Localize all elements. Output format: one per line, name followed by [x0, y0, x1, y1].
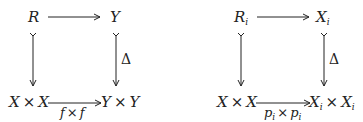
- mono-arrow-left-vertical: [30, 33, 36, 86]
- subscript: i: [352, 102, 355, 112]
- factor: Y: [101, 93, 111, 111]
- delta-label-left: Δ: [121, 52, 131, 66]
- subscript: i: [272, 112, 275, 122]
- node-R-label: R: [28, 8, 39, 26]
- factor: Y: [129, 93, 139, 111]
- times-op: ×: [23, 93, 36, 111]
- label-part: f: [80, 105, 85, 120]
- subscript: i: [245, 17, 248, 27]
- delta-label-right: Δ: [329, 52, 339, 66]
- factor: X: [217, 93, 228, 111]
- factor: X: [246, 93, 257, 111]
- times-op: ×: [67, 105, 78, 120]
- node-Y-label: Y: [110, 8, 120, 26]
- node-YxY: Y×Y: [101, 95, 139, 110]
- label-f-times-f: f×f: [60, 106, 85, 119]
- mono-arrow-right-vertical: [113, 33, 119, 86]
- times-op: ×: [114, 93, 127, 111]
- times-op: ×: [231, 93, 244, 111]
- node-XixXi: Xi×Xi: [309, 95, 355, 112]
- times-op: ×: [326, 93, 339, 111]
- factor: X: [341, 93, 352, 111]
- node-Y: Y: [110, 10, 120, 25]
- node-Xi: Xi: [316, 10, 330, 27]
- subscript: i: [298, 112, 301, 122]
- subscript: i: [320, 102, 323, 112]
- factor: X: [309, 93, 320, 111]
- node-Ri: Ri: [234, 10, 248, 27]
- base: X: [316, 8, 327, 26]
- mono-arrow-right-diagram-left-vertical: [238, 33, 244, 86]
- factor: X: [9, 93, 20, 111]
- times-op: ×: [277, 105, 288, 120]
- node-XxX-right: X×X: [217, 95, 257, 110]
- node-R: R: [28, 10, 39, 25]
- label-part: f: [60, 105, 65, 120]
- node-XxX-left: X×X: [9, 95, 49, 110]
- base: R: [234, 8, 245, 26]
- mono-arrow-right-diagram-right-vertical: [321, 33, 327, 86]
- subscript: i: [327, 17, 330, 27]
- factor: X: [38, 93, 49, 111]
- label-pi-times-pi: pi×pi: [264, 106, 301, 122]
